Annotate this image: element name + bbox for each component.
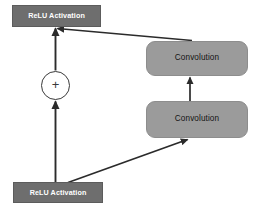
- node-relu-activation-bottom[interactable]: ReLU Activation: [13, 182, 103, 203]
- node-convolution-top-label: Convolution: [175, 54, 219, 63]
- residual-block-diagram: ReLU Activation + Convolution Convolutio…: [0, 0, 256, 209]
- node-convolution-bottom-label: Convolution: [175, 115, 219, 124]
- node-relu-activation-top-label: ReLU Activation: [28, 12, 85, 20]
- plus-icon: +: [52, 78, 60, 92]
- node-relu-activation-top[interactable]: ReLU Activation: [12, 5, 101, 27]
- node-convolution-bottom[interactable]: Convolution: [146, 101, 248, 138]
- edge-conv-top-to-relu-top: [58, 29, 193, 41]
- edge-relu-bottom-to-conv-bottom: [68, 140, 188, 183]
- node-addition-operator[interactable]: +: [41, 71, 70, 100]
- node-convolution-top[interactable]: Convolution: [146, 41, 248, 76]
- node-relu-activation-bottom-label: ReLU Activation: [30, 189, 87, 197]
